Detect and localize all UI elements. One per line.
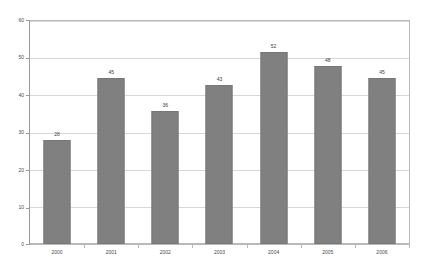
x-tick-mark [301,245,302,248]
y-tick-label-60: 60 [0,18,24,23]
bar-chart: 60 50 40 30 20 10 0 28453643524845 20002… [0,0,427,276]
y-tick-mark-10 [26,208,29,209]
bar-value-label: 36 [163,103,169,108]
bar-value-label: 28 [54,132,60,137]
y-tick-label-20: 20 [0,168,24,173]
bar[interactable] [260,52,287,244]
bar[interactable] [152,111,179,244]
x-tick-mark [192,245,193,248]
x-axis-labels: 2000200120022003200420052006 [30,250,409,262]
x-tick-mark [247,245,248,248]
y-tick-label-0: 0 [0,242,24,247]
bar[interactable] [368,78,395,245]
bar-slot: 45 [355,21,409,244]
x-tick-label: 2002 [160,250,171,255]
bar-slot: 48 [301,21,355,244]
bar-value-label: 45 [108,70,114,75]
y-tick-label-10: 10 [0,205,24,210]
bar-value-label: 43 [217,77,223,82]
x-tick-mark [138,245,139,248]
x-tick-label: 2000 [52,250,63,255]
bar-value-label: 45 [379,70,385,75]
y-tick-mark-60 [26,20,29,21]
y-tick-mark-20 [26,170,29,171]
x-tick-label: 2004 [268,250,279,255]
x-tick-label: 2006 [376,250,387,255]
x-tick-label: 2005 [322,250,333,255]
x-tick-label: 2003 [214,250,225,255]
bar[interactable] [98,78,125,245]
y-tick-mark-50 [26,58,29,59]
y-tick-label-30: 30 [0,130,24,135]
bar-slot: 36 [138,21,192,244]
x-tick-label: 2001 [106,250,117,255]
bar-slot: 28 [30,21,84,244]
x-tick-mark [409,245,410,248]
x-tick-mark [355,245,356,248]
bars-layer: 28453643524845 [30,21,409,244]
bar-value-label: 48 [325,58,331,63]
bar-slot: 43 [192,21,246,244]
bar[interactable] [206,85,233,244]
bar-slot: 45 [84,21,138,244]
bar[interactable] [314,66,341,244]
y-tick-mark-0 [26,244,29,245]
y-tick-mark-40 [26,95,29,96]
y-tick-mark-30 [26,133,29,134]
x-tick-mark [84,245,85,248]
bar-value-label: 52 [271,44,277,49]
bar-slot: 52 [247,21,301,244]
y-tick-label-40: 40 [0,93,24,98]
bar[interactable] [44,140,71,244]
y-tick-label-50: 50 [0,55,24,60]
